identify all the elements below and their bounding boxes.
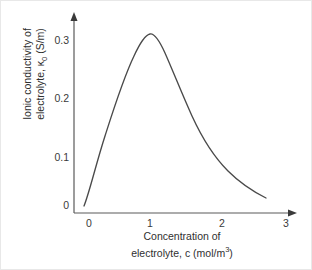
x-tick-label-2: 2 — [212, 217, 232, 229]
x-axis-arrowhead — [288, 210, 297, 217]
x-tick-label-1: 1 — [140, 217, 160, 229]
x-tick-label-0: 0 — [79, 217, 99, 229]
y-axis-arrowhead — [71, 12, 78, 21]
x-axis-label-line1: Concentration of — [87, 229, 277, 243]
chart-figure: 0 0.1 0.2 0.3 0 1 2 3 Ionic conductivity… — [0, 0, 312, 270]
x-axis-label: Concentration of electrolyte, c (mol/m3) — [87, 229, 277, 260]
x-axis-label-prefix: electrolyte, c (mol/m — [131, 247, 225, 259]
kappa-symbol: κ — [34, 61, 46, 66]
y-tick-label-0: 0 — [43, 199, 69, 211]
y-axis-label-line2: electrolyte, κ0 (S/m) — [34, 28, 51, 120]
x-axis-label-suffix: ) — [229, 247, 233, 259]
y-axis-label-line1: Ionic conductivity of — [21, 28, 34, 120]
y-axis-label-prefix: electrolyte, — [34, 66, 46, 120]
y-axis-label: Ionic conductivity of electrolyte, κ0 (S… — [19, 0, 53, 159]
kappa-subscript: 0 — [40, 57, 49, 61]
conductivity-curve — [84, 34, 266, 206]
x-tick-label-3: 3 — [276, 217, 296, 229]
x-axis-label-line2: electrolyte, c (mol/m3) — [87, 243, 277, 260]
y-axis-label-units: (S/m) — [34, 28, 46, 57]
